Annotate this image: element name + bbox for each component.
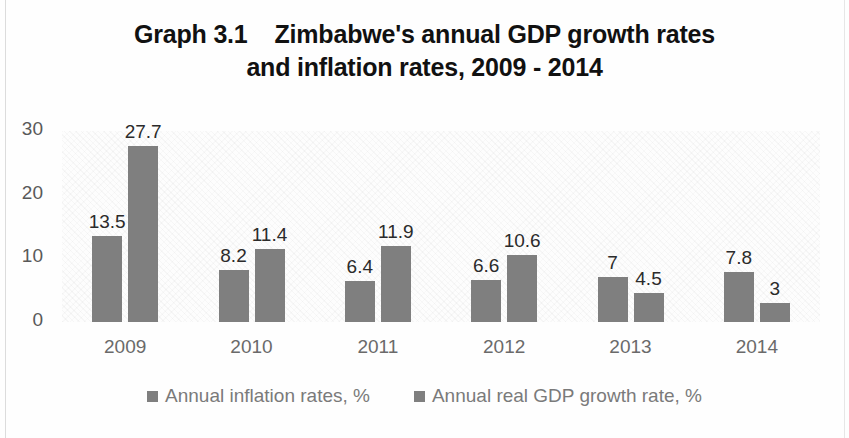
legend-swatch-icon — [147, 391, 158, 402]
y-axis-tick-label: 0 — [3, 309, 43, 331]
x-axis-tick-label: 2009 — [80, 336, 170, 358]
x-axis-tick-label: 2010 — [207, 336, 297, 358]
chart-title-line-1: Graph 3.1 Zimbabwe's annual GDP growth r… — [0, 18, 849, 51]
bar — [128, 146, 158, 322]
bar — [219, 270, 249, 322]
bar-value-label: 11.9 — [366, 221, 426, 243]
x-axis-tick-label: 2012 — [459, 336, 549, 358]
y-axis-tick-label: 30 — [3, 118, 43, 140]
bar-value-label: 3 — [745, 278, 805, 300]
bar-value-label: 11.4 — [240, 224, 300, 246]
bar-value-label: 10.6 — [492, 230, 552, 252]
bar-value-label: 7.8 — [709, 247, 769, 269]
bar — [471, 280, 501, 322]
chart-title-line-2: and inflation rates, 2009 - 2014 — [0, 51, 849, 84]
bar-value-label: 8.2 — [204, 245, 264, 267]
y-axis-tick-label: 20 — [3, 182, 43, 204]
bar — [92, 236, 122, 322]
page-title: Graph 3.1 Zimbabwe's annual GDP growth r… — [0, 18, 849, 84]
bar-value-label: 6.4 — [330, 256, 390, 278]
bar — [345, 281, 375, 322]
legend-item[interactable]: Annual inflation rates, % — [147, 385, 370, 407]
legend-item[interactable]: Annual real GDP growth rate, % — [414, 385, 702, 407]
bar — [760, 303, 790, 322]
plot-area — [62, 131, 820, 322]
x-axis-tick-label: 2014 — [712, 336, 802, 358]
x-axis-tick-label: 2011 — [333, 336, 423, 358]
chart-figure: Graph 3.1 Zimbabwe's annual GDP growth r… — [0, 0, 849, 438]
legend-item-label: Annual inflation rates, % — [165, 385, 370, 407]
legend-item-label: Annual real GDP growth rate, % — [432, 385, 702, 407]
chart-legend: Annual inflation rates, %Annual real GDP… — [0, 385, 849, 407]
bar-value-label: 4.5 — [619, 268, 679, 290]
bar-value-label: 13.5 — [77, 211, 137, 233]
y-axis-tick-label: 10 — [3, 245, 43, 267]
bar-value-label: 6.6 — [456, 255, 516, 277]
bar — [634, 293, 664, 322]
legend-swatch-icon — [414, 391, 425, 402]
x-axis-tick-label: 2013 — [586, 336, 676, 358]
bar-value-label: 27.7 — [113, 121, 173, 143]
plot-background-texture — [62, 131, 820, 322]
